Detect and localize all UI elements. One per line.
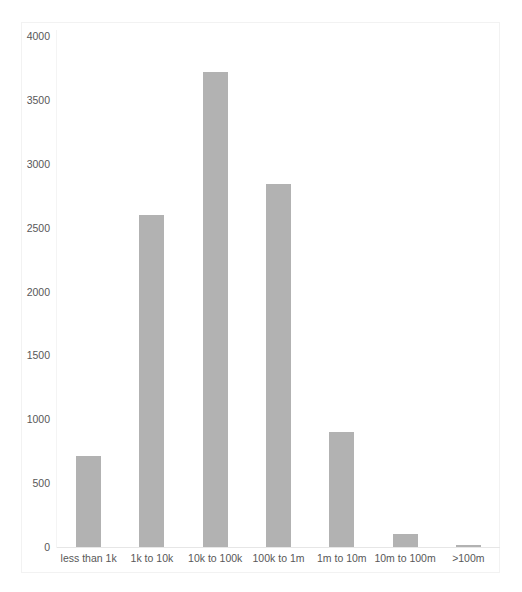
x-axis-tick-labels: less than 1k1k to 10k10k to 100k100k to … [57,552,500,572]
bar [329,432,354,547]
bar-column [184,36,247,547]
bar-column [120,36,183,547]
y-axis-tick-label: 0 [10,542,50,553]
y-axis-tick-label: 4000 [10,31,50,42]
bar [393,534,418,547]
bar-column [373,36,436,547]
x-axis-tick-label: 1m to 10m [317,552,367,565]
bar [139,215,164,547]
plot-area [57,36,500,547]
bar-column [247,36,310,547]
bar-column [310,36,373,547]
y-axis-tick-label: 1000 [10,414,50,425]
y-axis-tick-label: 2000 [10,286,50,297]
y-axis-tick-label: 1500 [10,350,50,361]
y-axis-tick-label: 3500 [10,95,50,106]
bar [203,72,228,547]
bar-column [437,36,500,547]
x-axis-line [57,547,500,548]
x-axis-tick-label: 1k to 10k [131,552,174,565]
bar-chart: 05001000150020002500300035004000 less th… [0,0,522,592]
bar [266,184,291,547]
bar [76,456,101,547]
x-axis-tick-label: less than 1k [61,552,117,565]
y-axis-tick-labels: 05001000150020002500300035004000 [8,36,50,547]
x-axis-tick-label: 10m to 100m [374,552,435,565]
y-axis-tick-label: 500 [10,478,50,489]
bar [456,545,481,547]
y-axis-tick-label: 3000 [10,159,50,170]
x-axis-tick-label: >100m [452,552,484,565]
x-axis-tick-label: 100k to 1m [253,552,305,565]
x-axis-tick-label: 10k to 100k [188,552,242,565]
y-axis-tick-label: 2500 [10,222,50,233]
bar-column [57,36,120,547]
